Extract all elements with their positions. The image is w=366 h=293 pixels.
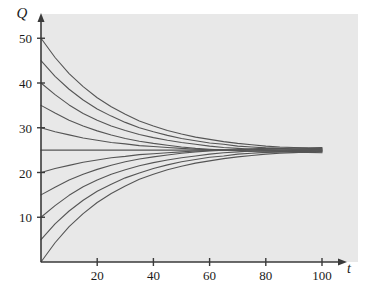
y-axis-tick-label: 20 bbox=[19, 166, 32, 181]
chart-figure: 102030405020406080100 Q t bbox=[0, 0, 366, 293]
x-axis-tick-label: 40 bbox=[147, 268, 160, 283]
y-axis-tick-label: 40 bbox=[19, 76, 32, 91]
x-axis-tick-label: 100 bbox=[312, 268, 332, 283]
y-axis-tick-label: 50 bbox=[19, 31, 32, 46]
quantity-vs-time-chart: 102030405020406080100 Q t bbox=[0, 0, 366, 293]
x-axis-tick-label: 60 bbox=[203, 268, 216, 283]
y-axis-tick-label: 10 bbox=[19, 210, 32, 225]
y-axis-tick-label: 30 bbox=[19, 121, 32, 136]
x-axis-tick-label: 20 bbox=[91, 268, 104, 283]
x-axis-tick-label: 80 bbox=[259, 268, 272, 283]
y-axis-label: Q bbox=[17, 5, 28, 21]
